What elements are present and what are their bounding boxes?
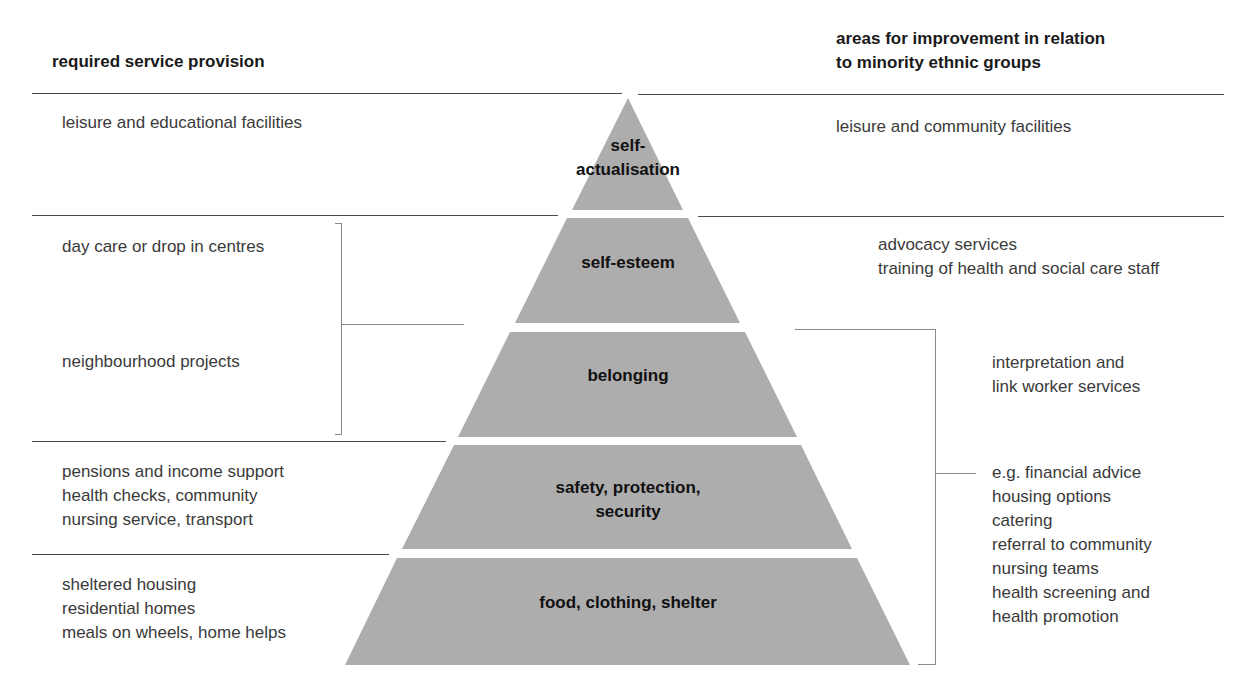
left-item-leisure: leisure and educational facilities: [62, 111, 302, 135]
pyramid-label-self-actualisation: self- actualisation: [576, 134, 680, 182]
pyramid-label-safety: safety, protection, security: [555, 476, 700, 524]
right-item-interpretation: interpretation and link worker services: [992, 351, 1140, 399]
right-item-financial-advice: e.g. financial advice housing options ca…: [992, 461, 1152, 629]
pyramid-label-food-clothing-shelter: food, clothing, shelter: [539, 592, 717, 614]
left-item-day-care: day care or drop in centres: [62, 235, 264, 259]
left-item-sheltered-housing: sheltered housing residential homes meal…: [62, 573, 286, 645]
left-item-neighbourhood: neighbourhood projects: [62, 350, 240, 374]
pyramid-label-self-esteem: self-esteem: [581, 252, 675, 274]
right-item-leisure: leisure and community facilities: [836, 115, 1071, 139]
left-item-pensions: pensions and income support health check…: [62, 460, 284, 532]
pyramid-label-belonging: belonging: [587, 365, 668, 387]
right-item-advocacy: advocacy services training of health and…: [878, 233, 1159, 281]
